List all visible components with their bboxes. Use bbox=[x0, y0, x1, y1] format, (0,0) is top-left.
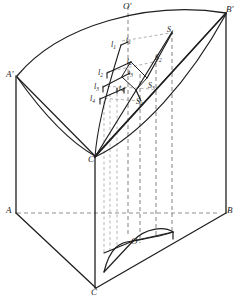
edge-bottom-CB bbox=[96, 213, 226, 288]
line-Aprime-Cprime bbox=[17, 77, 95, 156]
label-B-prime: B′ bbox=[226, 5, 233, 14]
label-S1: S1 bbox=[167, 26, 174, 34]
label-t1: t1 bbox=[126, 36, 131, 44]
bottom-face-detail bbox=[104, 229, 173, 272]
petal-edge bbox=[133, 232, 173, 241]
geometry-figure: A′ B′ O′ C′ A B O C l1 l2 l3 l4 t1 t2 t3… bbox=[0, 0, 240, 303]
label-l1: l1 bbox=[111, 41, 116, 49]
inner-construction-lines bbox=[95, 42, 131, 157]
connector-l3-S3 bbox=[102, 86, 152, 89]
label-l2: l2 bbox=[98, 69, 103, 77]
label-B: B bbox=[227, 206, 233, 215]
edge-bottom-AC bbox=[16, 213, 96, 288]
label-O: O bbox=[131, 237, 138, 246]
fan-line-2 bbox=[104, 241, 133, 253]
label-A: A bbox=[6, 206, 12, 215]
vertical-guide-lines-major bbox=[128, 6, 172, 243]
label-C-prime: C′ bbox=[88, 155, 96, 164]
figure-canvas bbox=[0, 0, 240, 303]
small-quad-detail bbox=[122, 62, 147, 90]
label-A-prime: A′ bbox=[6, 70, 13, 79]
vertical-guide-lines bbox=[104, 88, 117, 253]
label-l4: l4 bbox=[90, 95, 95, 103]
horizontal-connectors bbox=[99, 33, 170, 101]
label-O-prime: O′ bbox=[123, 2, 131, 11]
label-C: C bbox=[91, 288, 97, 297]
label-S4: S4 bbox=[136, 98, 143, 106]
label-l3: l3 bbox=[94, 83, 99, 91]
label-t4: t4 bbox=[119, 84, 124, 92]
quad-edges bbox=[122, 62, 147, 90]
label-S2: S2 bbox=[155, 54, 162, 62]
label-S3: S3 bbox=[148, 82, 155, 90]
label-t3: t3 bbox=[128, 69, 133, 77]
label-t2: t2 bbox=[127, 57, 132, 65]
